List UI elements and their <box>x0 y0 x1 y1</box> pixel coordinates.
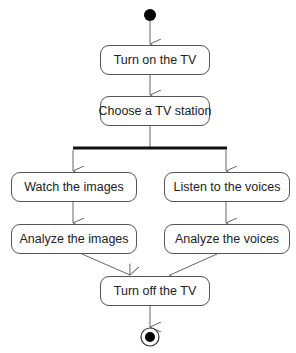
activity-listen-voices: Listen to the voices <box>164 172 290 202</box>
activity-label: Analyze the voices <box>175 232 279 246</box>
activity-label: Turn off the TV <box>114 284 196 298</box>
activity-label: Listen to the voices <box>173 180 280 194</box>
edge-analyze-images-turn-off <box>82 254 130 275</box>
activity-turn-off-tv: Turn off the TV <box>100 276 210 306</box>
activity-label: Watch the images <box>24 180 124 194</box>
activity-turn-on-tv: Turn on the TV <box>100 45 210 75</box>
initial-node <box>144 9 156 21</box>
activity-label: Analyze the images <box>19 232 128 246</box>
activity-analyze-voices: Analyze the voices <box>164 224 290 254</box>
activity-analyze-images: Analyze the images <box>11 224 137 254</box>
edge-analyze-voices-turn-off <box>170 254 217 275</box>
activity-watch-images: Watch the images <box>11 172 137 202</box>
final-node-inner <box>145 332 155 342</box>
fork-bar <box>73 147 227 150</box>
activity-label: Turn on the TV <box>114 53 197 67</box>
activity-label: Choose a TV station <box>98 104 211 118</box>
activity-choose-station: Choose a TV station <box>100 96 210 126</box>
